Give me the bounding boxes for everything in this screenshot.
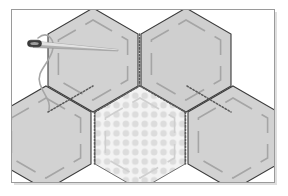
hexagon-patchwork-illustration <box>0 0 288 196</box>
illustration-scene <box>0 0 288 196</box>
needle-eye <box>28 40 42 47</box>
